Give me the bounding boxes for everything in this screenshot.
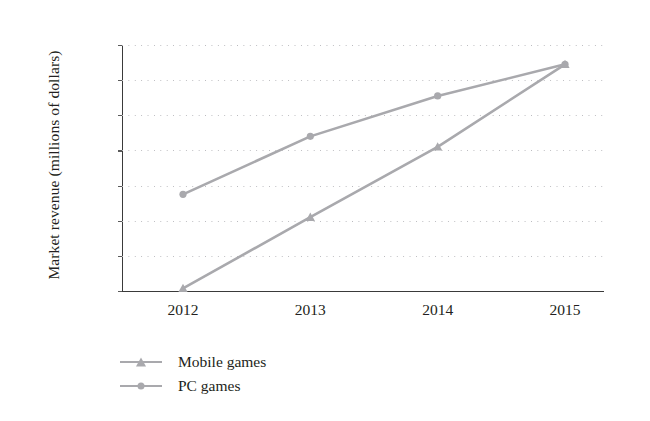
legend-item[interactable]: Mobile games: [118, 352, 266, 372]
series-group: [122, 45, 604, 291]
x-tick-label: 2014: [398, 301, 478, 319]
triangle-marker-icon: [136, 358, 146, 367]
x-tick-label: 2015: [525, 301, 605, 319]
circle-marker-icon: [138, 383, 145, 390]
series-line-pc-games: [183, 64, 565, 194]
circle-marker-icon: [434, 92, 441, 99]
chart-canvas: Market revenue (millions of dollars) 23,…: [0, 0, 650, 421]
legend-label: PC games: [164, 377, 240, 395]
chart-legend: Mobile gamesPC games: [118, 352, 266, 396]
x-tick-label: 2013: [270, 301, 350, 319]
y-axis-title: Market revenue (millions of dollars): [45, 15, 63, 315]
legend-label: Mobile games: [164, 353, 266, 371]
circle-marker-icon: [561, 61, 568, 68]
plot-area: 23,00021,00019,00017,00015,00013,00011,0…: [122, 45, 604, 291]
legend-swatch: [118, 379, 164, 393]
series-line-mobile-games: [183, 64, 565, 288]
legend-swatch: [118, 355, 164, 369]
circle-marker-icon: [307, 133, 314, 140]
y-tick-mark: [118, 291, 122, 292]
circle-marker-icon: [179, 191, 186, 198]
x-tick-label: 2012: [143, 301, 223, 319]
x-axis-line: [122, 291, 604, 292]
legend-item[interactable]: PC games: [118, 376, 266, 396]
